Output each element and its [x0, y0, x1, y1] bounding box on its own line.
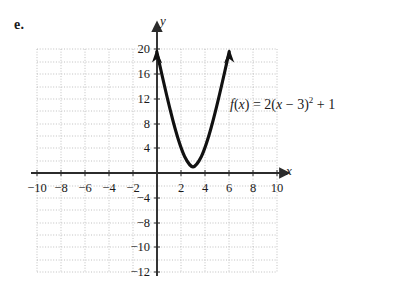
- parabola-curve: [157, 52, 229, 167]
- x-tick-label: 10: [264, 181, 290, 196]
- equation-equals: =: [249, 97, 264, 112]
- y-tick-label: 4: [116, 141, 150, 156]
- x-axis-label: x: [286, 163, 292, 179]
- y-tick-label: −8: [114, 216, 150, 231]
- x-tick-label: 6: [218, 181, 240, 196]
- x-tick-label: 8: [242, 181, 264, 196]
- equation-constant: 1: [328, 97, 335, 112]
- equation-minus-sign: −: [282, 97, 297, 112]
- parabola-figure: e.: [0, 0, 399, 291]
- function-equation-label: f(x) = 2(x − 3)2 + 1: [230, 95, 335, 113]
- y-tick-label: −12: [108, 265, 150, 280]
- coordinate-plot: [0, 0, 399, 291]
- y-tick-label: 16: [116, 67, 150, 82]
- y-tick-label: 20: [116, 42, 150, 57]
- y-tick-label: 12: [116, 92, 150, 107]
- y-tick-label: −10: [108, 240, 150, 255]
- x-tick-label: 4: [194, 181, 216, 196]
- equation-plus-sign: +: [313, 97, 328, 112]
- y-tick-label: 8: [116, 117, 150, 132]
- curve-right-arrowhead: [224, 50, 234, 64]
- y-tick-label: −4: [114, 191, 150, 206]
- y-axis-label: y: [160, 13, 166, 29]
- x-tick-label: 2: [170, 181, 192, 196]
